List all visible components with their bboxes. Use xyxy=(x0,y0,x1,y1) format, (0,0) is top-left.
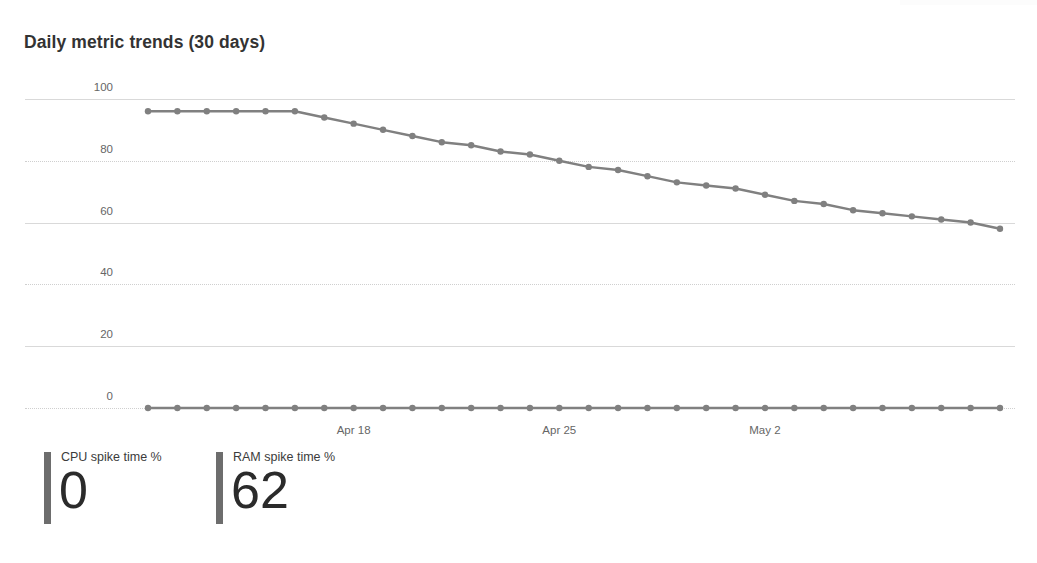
data-point-marker[interactable] xyxy=(585,164,591,170)
data-point-marker[interactable] xyxy=(380,127,386,133)
data-point-marker[interactable] xyxy=(703,182,709,188)
data-point-marker[interactable] xyxy=(967,405,973,411)
line-series-layer xyxy=(25,68,1015,408)
data-point-marker[interactable] xyxy=(292,405,298,411)
data-point-marker[interactable] xyxy=(439,139,445,145)
kpi-accent-bar xyxy=(216,452,223,524)
chart-plot-area: 020406080100 xyxy=(25,68,1015,408)
data-point-marker[interactable] xyxy=(409,405,415,411)
data-point-marker[interactable] xyxy=(145,108,151,114)
data-point-marker[interactable] xyxy=(321,114,327,120)
data-point-marker[interactable] xyxy=(732,185,738,191)
data-point-marker[interactable] xyxy=(850,405,856,411)
data-point-marker[interactable] xyxy=(262,108,268,114)
data-point-marker[interactable] xyxy=(821,201,827,207)
kpi-value: 62 xyxy=(231,461,289,519)
data-point-marker[interactable] xyxy=(174,108,180,114)
data-point-marker[interactable] xyxy=(380,405,386,411)
data-point-marker[interactable] xyxy=(468,142,474,148)
x-axis-tick-label: Apr 18 xyxy=(337,424,371,436)
data-point-marker[interactable] xyxy=(762,405,768,411)
data-point-marker[interactable] xyxy=(879,405,885,411)
data-point-marker[interactable] xyxy=(674,179,680,185)
data-point-marker[interactable] xyxy=(909,405,915,411)
data-point-marker[interactable] xyxy=(762,192,768,198)
data-point-marker[interactable] xyxy=(174,405,180,411)
chart-card: Daily metric trends (30 days) 0204060801… xyxy=(0,0,1037,445)
data-point-marker[interactable] xyxy=(556,405,562,411)
data-point-marker[interactable] xyxy=(938,405,944,411)
data-point-marker[interactable] xyxy=(292,108,298,114)
data-point-marker[interactable] xyxy=(204,405,210,411)
data-point-marker[interactable] xyxy=(615,405,621,411)
data-point-marker[interactable] xyxy=(791,405,797,411)
data-point-marker[interactable] xyxy=(350,120,356,126)
data-point-marker[interactable] xyxy=(850,207,856,213)
data-point-marker[interactable] xyxy=(821,405,827,411)
data-point-marker[interactable] xyxy=(909,213,915,219)
data-point-marker[interactable] xyxy=(145,405,151,411)
x-axis-tick-label: Apr 25 xyxy=(542,424,576,436)
data-point-marker[interactable] xyxy=(556,158,562,164)
data-point-marker[interactable] xyxy=(703,405,709,411)
x-axis-tick-label: May 2 xyxy=(749,424,780,436)
data-point-marker[interactable] xyxy=(879,210,885,216)
data-point-marker[interactable] xyxy=(233,108,239,114)
data-point-marker[interactable] xyxy=(468,405,474,411)
data-point-marker[interactable] xyxy=(791,198,797,204)
data-point-marker[interactable] xyxy=(644,173,650,179)
data-point-marker[interactable] xyxy=(262,405,268,411)
data-point-marker[interactable] xyxy=(997,226,1003,232)
kpi-accent-bar xyxy=(44,452,51,524)
data-point-marker[interactable] xyxy=(967,219,973,225)
data-point-marker[interactable] xyxy=(527,405,533,411)
data-point-marker[interactable] xyxy=(674,405,680,411)
data-point-marker[interactable] xyxy=(732,405,738,411)
data-point-marker[interactable] xyxy=(644,405,650,411)
kpi-value: 0 xyxy=(59,461,88,519)
chart-title: Daily metric trends (30 days) xyxy=(24,32,265,53)
data-point-marker[interactable] xyxy=(585,405,591,411)
data-point-marker[interactable] xyxy=(350,405,356,411)
data-point-marker[interactable] xyxy=(615,167,621,173)
data-point-marker[interactable] xyxy=(497,148,503,154)
data-point-marker[interactable] xyxy=(497,405,503,411)
data-point-marker[interactable] xyxy=(527,151,533,157)
data-point-marker[interactable] xyxy=(321,405,327,411)
data-point-marker[interactable] xyxy=(409,133,415,139)
kpi-row: CPU spike time %0RAM spike time %62 xyxy=(0,448,1037,543)
data-point-marker[interactable] xyxy=(233,405,239,411)
data-point-marker[interactable] xyxy=(204,108,210,114)
data-point-marker[interactable] xyxy=(997,405,1003,411)
data-point-marker[interactable] xyxy=(439,405,445,411)
series-line xyxy=(148,111,1000,228)
data-point-marker[interactable] xyxy=(938,216,944,222)
